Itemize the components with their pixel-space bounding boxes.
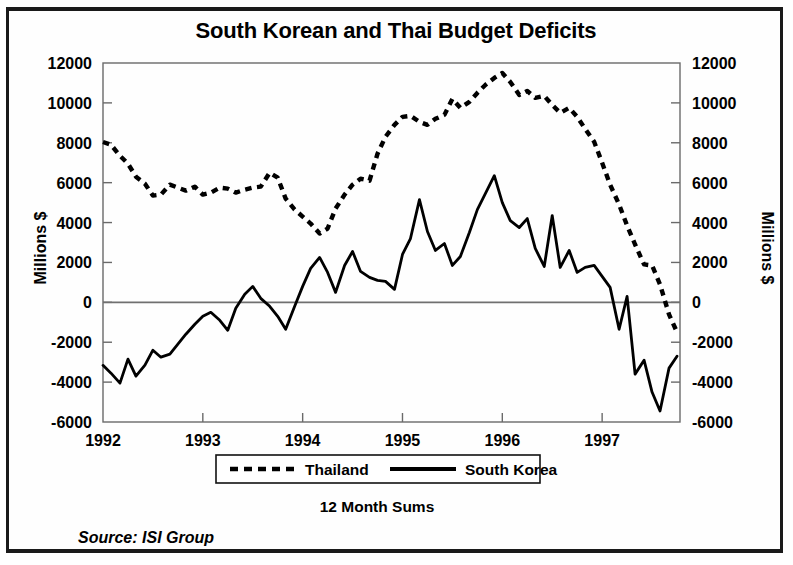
y-tick-label-right: -4000 [692, 374, 733, 391]
plot-area-border [103, 63, 680, 422]
y-tick-label-left: 2000 [56, 254, 92, 271]
x-tick-label: 1994 [285, 432, 321, 449]
y-tick-label-right: 12000 [692, 55, 737, 72]
y-tick-label-left: 12000 [48, 55, 93, 72]
legend-label-thailand: Thailand [305, 461, 369, 478]
x-tick-label: 1992 [85, 432, 121, 449]
x-tick-label: 1995 [385, 432, 421, 449]
series-line-south-korea [103, 176, 677, 411]
y-tick-label-left: 8000 [56, 135, 92, 152]
y-tick-label-right: 4000 [692, 215, 728, 232]
y-axis-label-left: Millions $ [32, 211, 49, 284]
chart-title: South Korean and Thai Budget Deficits [196, 18, 597, 43]
y-tick-label-right: -6000 [692, 414, 733, 431]
y-tick-label-left: 0 [83, 294, 92, 311]
y-tick-label-right: 10000 [692, 95, 737, 112]
y-tick-label-right: 6000 [692, 175, 728, 192]
x-tick-label: 1996 [485, 432, 521, 449]
y-tick-label-left: -4000 [51, 374, 92, 391]
legend-label-south-korea: South Korea [465, 461, 558, 478]
chart-canvas: South Korean and Thai Budget Deficits 12… [0, 0, 793, 565]
y-tick-label-right: 0 [692, 294, 701, 311]
y-tick-label-left: 6000 [56, 175, 92, 192]
x-tick-label: 1993 [185, 432, 221, 449]
x-tick-label: 1997 [584, 432, 620, 449]
y-tick-label-right: 8000 [692, 135, 728, 152]
y-tick-label-left: -6000 [51, 414, 92, 431]
y-tick-label-right: -2000 [692, 334, 733, 351]
source-note: Source: ISI Group [78, 529, 214, 546]
data-series-group [103, 73, 677, 411]
y-tick-label-left: -2000 [51, 334, 92, 351]
y-tick-label-left: 10000 [48, 95, 93, 112]
y-axis-label-right: Millions $ [759, 212, 776, 285]
series-line-thailand [103, 73, 677, 332]
x-axis-ticks: 199219931994199519961997 [85, 413, 620, 449]
y-tick-label-left: 4000 [56, 215, 92, 232]
x-axis-label: 12 Month Sums [320, 498, 435, 515]
y-tick-label-right: 2000 [692, 254, 728, 271]
